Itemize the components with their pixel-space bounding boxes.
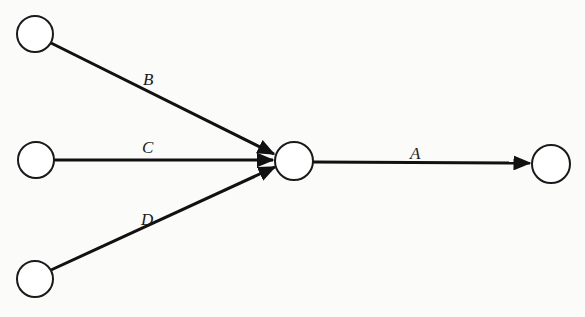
node-source-middle — [18, 142, 54, 178]
network-diagram: B C D A — [0, 0, 585, 317]
edge-label-d: D — [140, 210, 154, 229]
node-sink — [532, 145, 570, 183]
node-source-top — [17, 16, 53, 52]
node-source-bottom — [17, 261, 53, 297]
node-merge — [275, 142, 313, 180]
edge-b — [51, 43, 274, 154]
edge-d — [51, 167, 275, 270]
edge-label-b: B — [143, 70, 154, 89]
edge-label-a: A — [409, 144, 421, 163]
edge-a — [313, 162, 530, 163]
edge-label-c: C — [142, 138, 154, 157]
